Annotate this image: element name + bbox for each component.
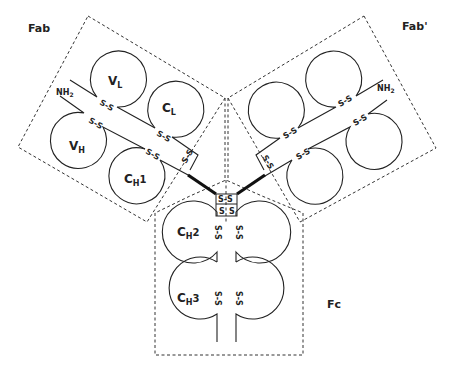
fab-ss-cl: S-S [155,129,173,144]
vh-domain [50,96,145,168]
fab-prime-arm: NH2 S-S S-S S-S S-S S-S [237,51,402,204]
vl-domain [70,51,155,128]
hinge-ss-upper: S-S [218,195,233,204]
fab-prime-label: Fab' [402,20,428,33]
vl-label: VL [108,74,122,90]
ch2-label: CH2 [177,225,200,241]
fc-label: Fc [327,298,341,311]
fab-ss-vh: S-S [87,116,105,131]
ch3-right-ss: S-S [234,291,243,306]
diagram-canvas: Fab Fab' Fc VL CL VH CH1 NH2 S-S S-S S-S [0,0,452,374]
fab-ss-vl: S-S [98,98,116,113]
fab-prime-upper-outer-domain [298,51,383,128]
vh-label: VH [69,139,85,155]
fab-prime-region-box [228,16,436,222]
fab-prime-nh2-label: NH2 [377,84,395,94]
fab-label: Fab [28,22,50,35]
fab-prime-ss-1: S-S [337,93,355,108]
hinge-ss-lower-left: S [219,207,225,216]
fab-prime-lower-outer-domain [308,100,402,169]
ch1-label: CH1 [124,172,147,188]
hinge-ss-lower-right: S [229,207,235,216]
fab-ss-interchain: S-S [180,147,195,165]
fab-prime-ss-3: S-S [282,125,300,140]
cl-label: CL [162,101,176,117]
fab-prime-ss-2: S-S [352,112,370,127]
ch3-label: CH3 [177,291,200,307]
fab-prime-hinge [237,175,265,194]
ch2-right-domain [236,201,291,263]
fab-region-box [18,16,225,222]
fab-ss-ch1: S-S [144,147,162,162]
ch3-left-ss: S-S [213,291,222,306]
ch2-left-ss: S-S [213,225,222,240]
ch2-right-ss: S-S [234,225,243,240]
fc-region: CH2 CH3 S-S S-S S-S S-S [162,201,290,342]
fab-arm: VL CL VH CH1 NH2 S-S S-S S-S S-S S-S [50,51,216,204]
fab-hinge [188,175,216,194]
antibody-diagram: Fab Fab' Fc VL CL VH CH1 NH2 S-S S-S S-S [0,0,452,374]
fab-nh2-label: NH2 [56,88,74,98]
